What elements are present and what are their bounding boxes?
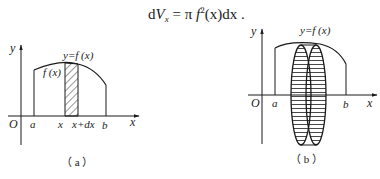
disk-front-face	[291, 45, 311, 145]
hatched-strip	[65, 63, 78, 116]
figures-canvas: y x O y=f (x) f (x) a x x+dx b （ a ） y x…	[0, 0, 380, 179]
origin-label: O	[251, 96, 260, 110]
y-axis-label: y	[250, 24, 257, 38]
tick-a: a	[30, 118, 36, 130]
y-axis-label: y	[9, 41, 16, 55]
tick-x: x	[57, 118, 63, 130]
origin-label: O	[9, 117, 18, 131]
x-axis-label: x	[129, 115, 136, 129]
tick-x-dx: x+dx	[71, 118, 95, 130]
tick-b: b	[343, 98, 349, 110]
curve-label: y=f (x)	[299, 24, 331, 37]
x-axis-label: x	[366, 96, 373, 110]
curve-label: y=f (x)	[62, 49, 94, 62]
caption-b: （ b ）	[290, 153, 323, 165]
height-label: f (x)	[43, 66, 61, 79]
tick-a: a	[272, 97, 278, 109]
tick-b: b	[102, 119, 108, 131]
figure-a: y x O y=f (x) f (x) a x x+dx b （ a ）	[8, 41, 139, 168]
caption-a: （ a ）	[61, 156, 93, 168]
figure-b: y x O y=f (x) a b （ b ）	[248, 24, 377, 165]
